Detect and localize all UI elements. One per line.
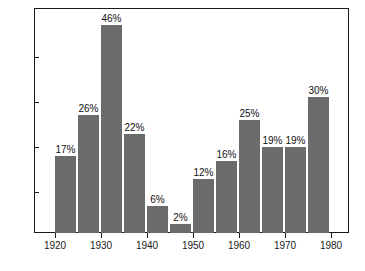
bar-value-label: 6% [138,194,178,205]
bar-value-label: 30% [299,85,339,96]
bar-value-label: 22% [115,122,155,133]
bar [78,115,99,233]
bar-chart: 40% 30% 20% 10% 0% 1920 1930 1940 1950 1… [0,0,365,271]
bar-value-label: 46% [92,13,132,24]
bar [216,161,237,233]
bar [308,97,329,233]
bar [262,147,283,233]
bars-layer: 17%26%46%22%6%2%12%16%25%19%19%30% [0,0,365,271]
bar [170,224,191,233]
bar-value-label: 25% [230,108,270,119]
bar [193,179,214,233]
bar [124,134,145,233]
bar [285,147,306,233]
bar [55,156,76,233]
